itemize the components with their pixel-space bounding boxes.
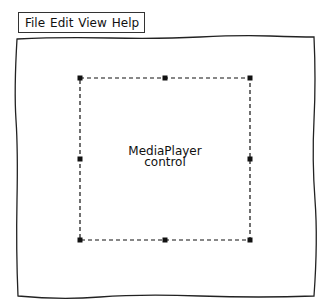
control-label-line2: control xyxy=(110,157,220,168)
control-label: MediaPlayer control xyxy=(110,146,220,168)
